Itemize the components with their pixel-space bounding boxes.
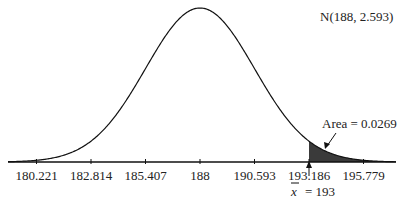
normal-curve — [8, 8, 396, 162]
xbar-value: = 193 — [305, 184, 335, 199]
x-tick-label: 185.407 — [124, 168, 167, 183]
distribution-label: N(188, 2.593) — [320, 9, 393, 24]
x-tick-label: 190.593 — [233, 168, 275, 183]
x-tick-label: 195.779 — [342, 168, 384, 183]
area-label: Area = 0.0269 — [322, 116, 397, 131]
x-tick-label: 180.221 — [15, 168, 57, 183]
xbar-symbol: x — [290, 184, 297, 199]
normal-distribution-chart: 180.221182.814185.407188190.593193.18619… — [0, 0, 404, 202]
x-tick-label: 188 — [190, 168, 210, 183]
x-tick-label: 182.814 — [70, 168, 113, 183]
